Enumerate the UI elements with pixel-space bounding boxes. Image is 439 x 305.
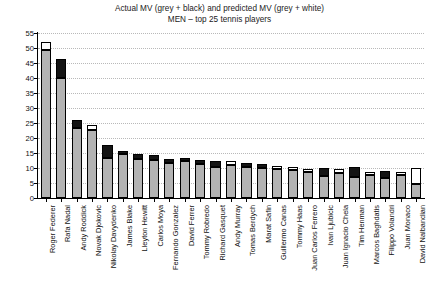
bar-segment-grey: [349, 177, 359, 198]
bar-segment-grey: [195, 164, 205, 198]
x-axis-tick-mark: [200, 198, 201, 202]
bar-segment-black: [319, 168, 329, 176]
bar: [41, 33, 51, 198]
bar-segment-grey: [303, 172, 313, 198]
x-axis-tick-mark: [401, 198, 402, 202]
x-axis-tick-label: Ivan Ljubicic: [327, 205, 334, 246]
bar-segment-grey: [102, 158, 112, 199]
bar-segment-black: [72, 120, 82, 128]
y-axis-tick-label: 35: [26, 89, 34, 98]
x-axis-tick-label: Nikolay Davydenko: [110, 205, 117, 268]
bar-segment-grey: [396, 175, 406, 198]
bar: [349, 33, 359, 198]
x-axis-tick-mark: [169, 198, 170, 202]
y-axis-tick-mark: [34, 93, 37, 94]
bar-segment-grey: [272, 169, 282, 198]
chart-title-block: Actual MV (grey + black) and predicted M…: [0, 4, 439, 25]
y-axis-tick-mark: [34, 48, 37, 49]
x-axis-tick-label: David Ferrer: [188, 205, 195, 246]
bar-segment-grey: [380, 178, 390, 198]
x-axis-tick-mark: [185, 198, 186, 202]
x-axis-tick-label: Filippo Volandri: [388, 205, 395, 256]
bar-segment-grey: [288, 170, 298, 198]
x-axis-tick-label: Marat Safin: [265, 205, 272, 243]
chart-title: Actual MV (grey + black) and predicted M…: [0, 4, 439, 15]
bar-segment-grey: [149, 160, 159, 198]
x-axis-tick-mark: [308, 198, 309, 202]
bar-segment-white: [41, 42, 51, 50]
x-axis-tick-label: Tommy Robredo: [203, 205, 210, 259]
bar: [257, 33, 267, 198]
bar-segment-black: [380, 171, 390, 178]
x-axis-tick-mark: [46, 198, 47, 202]
chart-subtitle: MEN – top 25 tennis players: [0, 15, 439, 26]
bar: [149, 33, 159, 198]
bar-segment-grey: [365, 175, 375, 198]
bar-segment-black: [56, 59, 66, 79]
plot-area: [38, 33, 424, 198]
bar-segment-grey: [118, 154, 128, 198]
x-axis-tick-label: Andy Murray: [234, 205, 241, 247]
bar-segment-grey: [241, 167, 251, 198]
x-axis-tick-mark: [385, 198, 386, 202]
bar: [133, 33, 143, 198]
bar-segment-grey: [319, 176, 329, 198]
x-axis-tick-label: Roger Federer: [49, 205, 56, 253]
x-axis-tick-mark: [370, 198, 371, 202]
x-axis-tick-mark: [324, 198, 325, 202]
x-axis-tick-label: Andy Roddick: [80, 205, 87, 251]
x-axis-tick-mark: [154, 198, 155, 202]
y-axis-tick-label: 20: [26, 134, 34, 143]
y-axis-tick-mark: [34, 108, 37, 109]
y-axis-tick-label: 55: [26, 29, 34, 38]
x-axis-tick-mark: [216, 198, 217, 202]
bar: [164, 33, 174, 198]
x-axis-tick-label: James Blake: [126, 205, 133, 247]
x-axis-tick-label: Carlos Moya: [157, 205, 164, 246]
x-axis-tick-label: Juan Ignacio Chela: [342, 205, 349, 268]
bar: [288, 33, 298, 198]
y-axis-tick-mark: [34, 63, 37, 64]
y-axis-tick-mark: [34, 168, 37, 169]
bar-segment-black: [349, 167, 359, 177]
x-axis-tick-label: Tommy Haas: [296, 205, 303, 248]
x-axis-tick-label: Lleyton Hewitt: [141, 205, 148, 251]
bar: [226, 33, 236, 198]
x-axis-tick-mark: [355, 198, 356, 202]
x-axis-tick-label: Richard Gasquet: [219, 205, 226, 260]
x-axis-tick-mark: [246, 198, 247, 202]
x-axis-tick-mark: [262, 198, 263, 202]
bar: [411, 33, 421, 198]
bar: [102, 33, 112, 198]
y-axis-tick-label: 25: [26, 119, 34, 128]
x-axis-tick-label: Marcos Baghdatis: [373, 205, 380, 264]
x-axis-tick-mark: [339, 198, 340, 202]
x-axis-tick-mark: [123, 198, 124, 202]
x-axis-tick-label: Juan Carlos Ferrero: [311, 205, 318, 271]
bar: [272, 33, 282, 198]
x-axis-tick-mark: [77, 198, 78, 202]
bar-segment-grey: [226, 165, 236, 198]
y-axis-tick-mark: [34, 183, 37, 184]
y-axis-tick-label: 45: [26, 59, 34, 68]
y-axis-tick-label: 50: [26, 44, 34, 53]
x-axis-tick-mark: [416, 198, 417, 202]
bar: [72, 33, 82, 198]
bar: [241, 33, 251, 198]
bar-segment-grey: [41, 50, 51, 199]
x-axis-tick-mark: [293, 198, 294, 202]
x-axis-tick-label: Fernando Gonzalez: [172, 205, 179, 270]
bar-segment-grey: [87, 130, 97, 198]
bar: [180, 33, 190, 198]
bar: [396, 33, 406, 198]
bar-segment-grey: [210, 167, 220, 198]
bar: [365, 33, 375, 198]
bar-segment-grey: [257, 168, 267, 198]
x-axis-tick-mark: [107, 198, 108, 202]
bar-segment-grey: [180, 161, 190, 199]
bar: [87, 33, 97, 198]
y-axis-tick-mark: [34, 198, 37, 199]
y-axis-tick-label: 30: [26, 104, 34, 113]
bar-segment-grey: [164, 163, 174, 198]
y-axis-tick-mark: [34, 78, 37, 79]
